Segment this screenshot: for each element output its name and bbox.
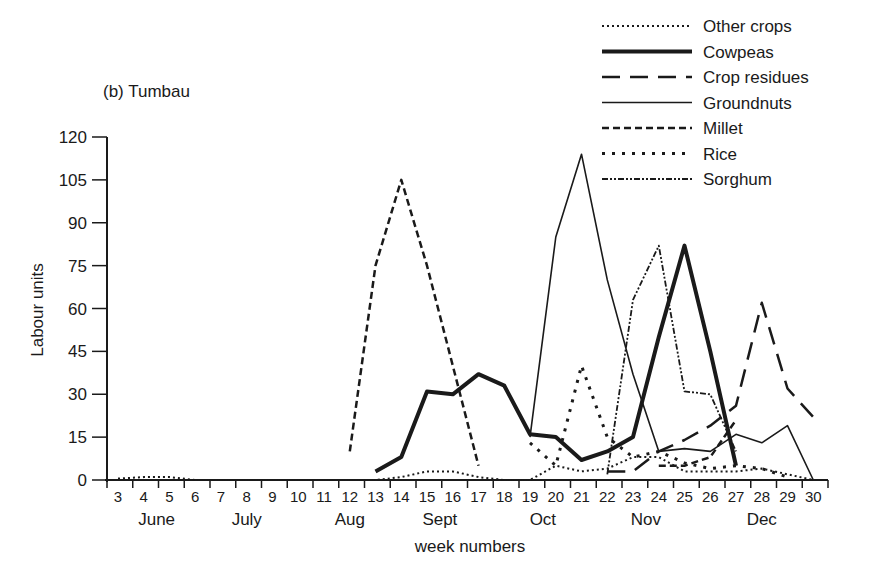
x-tick-label: 3 [114, 488, 122, 505]
legend: Other cropsCowpeasCrop residuesGroundnut… [602, 17, 809, 189]
legend-label: Millet [703, 119, 743, 138]
x-tick-label: 22 [599, 488, 616, 505]
x-tick-label: 12 [341, 488, 358, 505]
x-tick-label: 17 [470, 488, 487, 505]
x-tick-label: 16 [444, 488, 461, 505]
y-tick-label: 90 [68, 214, 87, 233]
series-line-rice [530, 366, 788, 477]
x-tick-label: 9 [268, 488, 276, 505]
legend-label: Sorghum [703, 170, 772, 189]
x-tick-label: 15 [419, 488, 436, 505]
chart-title: (b) Tumbau [103, 82, 190, 101]
y-tick-label: 45 [68, 342, 87, 361]
month-label: July [232, 510, 263, 529]
x-tick-label: 21 [573, 488, 590, 505]
x-tick-label: 4 [140, 488, 148, 505]
month-label: Sept [422, 510, 457, 529]
legend-label: Cowpeas [703, 43, 774, 62]
month-label: Dec [747, 510, 778, 529]
month-label: Nov [631, 510, 662, 529]
x-tick-label: 14 [393, 488, 410, 505]
y-tick-label: 30 [68, 385, 87, 404]
x-tick-label: 30 [805, 488, 822, 505]
y-tick-label: 105 [59, 171, 87, 190]
x-tick-label: 24 [650, 488, 667, 505]
x-tick-label: 28 [753, 488, 770, 505]
x-tick-label: 6 [191, 488, 199, 505]
x-tick-label: 27 [728, 488, 745, 505]
legend-label: Rice [703, 145, 737, 164]
x-tick-label: 10 [290, 488, 307, 505]
y-tick-label: 60 [68, 300, 87, 319]
x-tick-label: 13 [367, 488, 384, 505]
line-chart: (b) Tumbau Labour units week numbers 015… [0, 0, 870, 581]
legend-label: Groundnuts [703, 94, 792, 113]
month-label: Aug [335, 510, 365, 529]
series-lines [118, 154, 813, 480]
x-tick-label: 26 [702, 488, 719, 505]
series-line-crop-residues [607, 303, 813, 472]
x-tick-label: 8 [243, 488, 251, 505]
y-tick-label: 75 [68, 257, 87, 276]
x-tick-label: 19 [522, 488, 539, 505]
month-label: June [138, 510, 175, 529]
series-line-other-crops [118, 457, 813, 480]
x-tick-label: 25 [676, 488, 693, 505]
y-tick-label: 120 [59, 128, 87, 147]
x-tick-label: 23 [625, 488, 642, 505]
y-tick-label: 0 [78, 471, 87, 490]
x-tick-label: 5 [165, 488, 173, 505]
y-axis-label: Labour units [28, 263, 47, 357]
x-tick-label: 20 [547, 488, 564, 505]
legend-label: Other crops [703, 17, 792, 36]
x-tick-label: 18 [496, 488, 513, 505]
x-tick-label: 29 [779, 488, 796, 505]
x-tick-label: 7 [217, 488, 225, 505]
y-tick-label: 15 [68, 428, 87, 447]
x-axis-label: week numbers [414, 537, 526, 556]
legend-label: Crop residues [703, 68, 809, 87]
month-label: Oct [530, 510, 557, 529]
x-tick-label: 11 [316, 488, 332, 505]
